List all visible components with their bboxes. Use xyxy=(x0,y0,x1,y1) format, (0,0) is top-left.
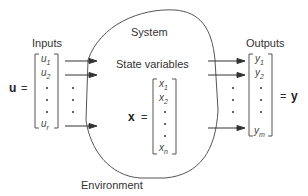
state-variables-label: State variables xyxy=(116,58,189,70)
output-arrows xyxy=(208,59,245,131)
state-ellipsis-dot xyxy=(164,135,166,137)
outputs-label: Outputs xyxy=(246,37,285,49)
inputs-label: Inputs xyxy=(32,37,62,49)
input-arrow-ellipsis-dot xyxy=(72,111,74,113)
state-xn: xn xyxy=(159,142,168,155)
output-arrow-ellipsis-dot xyxy=(232,87,234,89)
input-ellipsis-dot xyxy=(46,87,48,89)
input-u2: u2 xyxy=(41,67,50,80)
output-ym: ym xyxy=(254,125,265,138)
state-x1: x1 xyxy=(159,78,168,91)
input-u1: u1 xyxy=(41,53,50,66)
output-arrow-ellipsis-dot xyxy=(232,99,234,101)
output-ellipsis-dot xyxy=(260,111,262,113)
output-arrow-ellipsis-dot xyxy=(232,111,234,113)
state-ellipsis-dot xyxy=(164,123,166,125)
system-label: System xyxy=(131,26,168,38)
input-arrow-ellipsis-dot xyxy=(72,87,74,89)
input-arrow-ellipsis-dot xyxy=(72,99,74,101)
state-vector-name: x xyxy=(128,110,135,124)
environment-label: Environment xyxy=(81,179,143,191)
input-ur: ur xyxy=(41,118,49,131)
input-ellipsis-dot xyxy=(46,99,48,101)
input-ellipsis-dot xyxy=(46,111,48,113)
output-vector-name: y xyxy=(291,89,298,103)
output-y2: y2 xyxy=(255,67,264,80)
state-equals: = xyxy=(141,111,147,123)
state-ellipsis-dot xyxy=(164,111,166,113)
output-y1: y1 xyxy=(255,53,264,66)
output-equals: = xyxy=(280,90,286,102)
input-equals: = xyxy=(21,82,27,94)
output-ellipsis-dot xyxy=(260,87,262,89)
state-x2: x2 xyxy=(159,92,168,105)
input-vector-name: u xyxy=(9,81,16,95)
output-ellipsis-dot xyxy=(260,99,262,101)
input-arrows xyxy=(65,59,97,129)
